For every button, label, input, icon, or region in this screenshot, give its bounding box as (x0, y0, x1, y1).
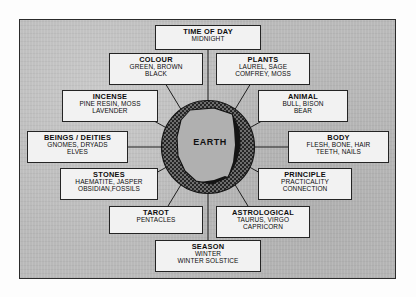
box-time-of-day[interactable]: TIME OF DAY MIDNIGHT (155, 25, 261, 50)
box-stones[interactable]: STONES HAEMATITE, JASPER OBSIDIAN,FOSSIL… (60, 168, 158, 200)
box-title: ANIMAL (262, 93, 344, 100)
box-title: SEASON (159, 243, 257, 250)
box-astrological[interactable]: ASTROLOGICAL TAURUS, VIRGO CAPRICORN (216, 206, 310, 238)
box-line: WINTER SOLSTICE (159, 258, 257, 265)
box-title: INCENSE (66, 93, 154, 100)
box-title: PRINCIPLE (262, 171, 348, 178)
box-line: ELVES (31, 149, 124, 156)
box-line: PENTACLES (113, 217, 199, 224)
box-line: LAVENDER (66, 108, 154, 115)
box-principle[interactable]: PRINCIPLE PRACTICALITY CONNECTION (258, 168, 352, 200)
box-line: COMFREY, MOSS (220, 71, 306, 78)
box-title: ASTROLOGICAL (220, 209, 306, 216)
box-title: PLANTS (220, 56, 306, 63)
box-line: MIDNIGHT (159, 36, 257, 43)
box-line: CAPRICORN (220, 224, 306, 231)
box-incense[interactable]: INCENSE PINE RESIN, MOSS LAVENDER (62, 90, 158, 122)
box-season[interactable]: SEASON WINTER WINTER SOLSTICE (155, 240, 261, 272)
box-line: BLACK (113, 71, 199, 78)
box-beings-deities[interactable]: BEINGS / DEITIES GNOMES, DRYADS ELVES (27, 131, 128, 163)
box-body[interactable]: BODY FLESH, BONE, HAIR TEETH, NAILS (288, 131, 389, 163)
box-animal[interactable]: ANIMAL BULL, BISON BEAR (258, 90, 348, 122)
box-colour[interactable]: COLOUR GREEN, BROWN BLACK (109, 53, 203, 85)
diagram-canvas: EARTH TIME OF DAY MIDNIGHT COLOUR GREEN,… (0, 0, 416, 297)
box-title: TAROT (113, 209, 199, 216)
box-line: BEAR (262, 108, 344, 115)
box-tarot[interactable]: TAROT PENTACLES (109, 206, 203, 234)
box-title: STONES (64, 171, 154, 178)
box-title: COLOUR (113, 56, 199, 63)
box-line: CONNECTION (262, 186, 348, 193)
box-line: OBSIDIAN,FOSSILS (64, 186, 154, 193)
earth-center-label: EARTH (182, 137, 238, 147)
box-title: BEINGS / DEITIES (31, 134, 124, 141)
box-title: TIME OF DAY (159, 28, 257, 35)
box-line: TEETH, NAILS (292, 149, 385, 156)
box-plants[interactable]: PLANTS LAUREL, SAGE COMFREY, MOSS (216, 53, 310, 85)
box-title: BODY (292, 134, 385, 141)
